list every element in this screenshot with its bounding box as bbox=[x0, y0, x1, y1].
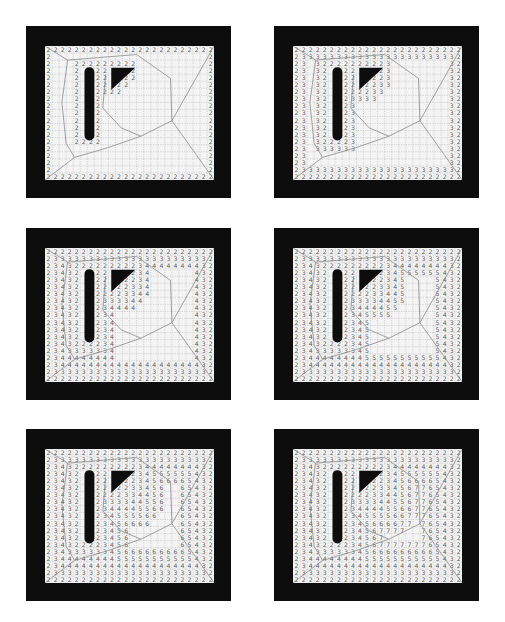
svg-text:2: 2 bbox=[295, 527, 299, 534]
svg-text:4: 4 bbox=[422, 562, 426, 569]
svg-text:2: 2 bbox=[457, 498, 461, 505]
svg-text:2: 2 bbox=[75, 283, 79, 290]
svg-text:3: 3 bbox=[316, 60, 320, 67]
svg-text:3: 3 bbox=[414, 368, 418, 375]
svg-text:7: 7 bbox=[400, 520, 404, 527]
svg-text:3: 3 bbox=[386, 463, 390, 470]
svg-text:3: 3 bbox=[450, 269, 454, 276]
svg-text:4: 4 bbox=[131, 361, 135, 368]
svg-text:5: 5 bbox=[436, 269, 440, 276]
svg-text:4: 4 bbox=[61, 269, 65, 276]
svg-text:2: 2 bbox=[124, 262, 128, 269]
svg-text:2: 2 bbox=[323, 304, 327, 311]
svg-text:4: 4 bbox=[309, 534, 313, 541]
svg-text:3: 3 bbox=[386, 81, 390, 88]
svg-text:2: 2 bbox=[323, 109, 327, 116]
svg-text:3: 3 bbox=[166, 368, 170, 375]
svg-text:2: 2 bbox=[181, 46, 185, 53]
svg-text:5: 5 bbox=[436, 333, 440, 340]
svg-text:2: 2 bbox=[103, 60, 107, 67]
svg-text:2: 2 bbox=[457, 340, 461, 347]
svg-text:4: 4 bbox=[323, 555, 327, 562]
svg-text:3: 3 bbox=[414, 53, 418, 60]
svg-text:3: 3 bbox=[316, 311, 320, 318]
svg-text:2: 2 bbox=[110, 463, 114, 470]
svg-text:2: 2 bbox=[124, 449, 128, 456]
svg-text:2: 2 bbox=[89, 60, 93, 67]
svg-text:2: 2 bbox=[209, 319, 213, 326]
svg-text:2: 2 bbox=[309, 449, 313, 456]
svg-text:5: 5 bbox=[117, 555, 121, 562]
svg-text:2: 2 bbox=[323, 117, 327, 124]
svg-text:3: 3 bbox=[174, 368, 178, 375]
svg-text:4: 4 bbox=[61, 562, 65, 569]
svg-text:4: 4 bbox=[443, 290, 447, 297]
svg-text:5: 5 bbox=[372, 512, 376, 519]
svg-text:5: 5 bbox=[124, 512, 128, 519]
svg-text:3: 3 bbox=[436, 53, 440, 60]
svg-text:4: 4 bbox=[174, 361, 178, 368]
svg-text:3: 3 bbox=[82, 548, 86, 555]
svg-text:2: 2 bbox=[316, 576, 320, 583]
svg-text:6: 6 bbox=[145, 512, 149, 519]
wavefront-grid: 2222222222222222222222222333333333333333… bbox=[45, 248, 214, 382]
svg-text:2: 2 bbox=[443, 375, 447, 382]
svg-text:2: 2 bbox=[117, 491, 121, 498]
svg-text:2: 2 bbox=[436, 173, 440, 180]
svg-text:3: 3 bbox=[145, 368, 149, 375]
svg-text:2: 2 bbox=[457, 562, 461, 569]
svg-text:3: 3 bbox=[450, 117, 454, 124]
svg-text:4: 4 bbox=[75, 555, 79, 562]
svg-text:4: 4 bbox=[379, 505, 383, 512]
svg-text:2: 2 bbox=[47, 109, 51, 116]
svg-text:3: 3 bbox=[159, 569, 163, 576]
svg-text:3: 3 bbox=[316, 131, 320, 138]
grid-field: 2222222222222222222222222333333333333333… bbox=[293, 46, 462, 180]
svg-text:5: 5 bbox=[365, 347, 369, 354]
svg-text:2: 2 bbox=[309, 46, 313, 53]
svg-text:3: 3 bbox=[54, 283, 58, 290]
svg-text:6: 6 bbox=[400, 505, 404, 512]
svg-text:5: 5 bbox=[393, 297, 397, 304]
svg-text:7: 7 bbox=[379, 527, 383, 534]
svg-text:2: 2 bbox=[131, 477, 135, 484]
svg-text:4: 4 bbox=[195, 290, 199, 297]
svg-text:3: 3 bbox=[54, 541, 58, 548]
svg-text:2: 2 bbox=[330, 46, 334, 53]
svg-text:2: 2 bbox=[323, 477, 327, 484]
vertical-bar-obstacle bbox=[332, 269, 342, 342]
svg-text:3: 3 bbox=[450, 541, 454, 548]
svg-text:4: 4 bbox=[195, 319, 199, 326]
svg-text:3: 3 bbox=[450, 520, 454, 527]
svg-text:2: 2 bbox=[209, 484, 213, 491]
svg-text:2: 2 bbox=[316, 173, 320, 180]
svg-text:4: 4 bbox=[323, 361, 327, 368]
svg-text:3: 3 bbox=[443, 166, 447, 173]
svg-text:2: 2 bbox=[457, 527, 461, 534]
svg-text:3: 3 bbox=[138, 463, 142, 470]
svg-text:2: 2 bbox=[330, 541, 334, 548]
svg-text:2: 2 bbox=[295, 534, 299, 541]
svg-text:3: 3 bbox=[379, 88, 383, 95]
svg-text:3: 3 bbox=[443, 53, 447, 60]
svg-text:3: 3 bbox=[68, 290, 72, 297]
svg-text:2: 2 bbox=[117, 262, 121, 269]
svg-text:3: 3 bbox=[54, 548, 58, 555]
svg-text:3: 3 bbox=[302, 512, 306, 519]
svg-text:2: 2 bbox=[61, 449, 65, 456]
svg-text:2: 2 bbox=[323, 67, 327, 74]
svg-text:5: 5 bbox=[152, 498, 156, 505]
svg-text:2: 2 bbox=[209, 326, 213, 333]
svg-text:2: 2 bbox=[54, 173, 58, 180]
svg-text:3: 3 bbox=[117, 569, 121, 576]
svg-text:3: 3 bbox=[344, 166, 348, 173]
svg-text:6: 6 bbox=[159, 477, 163, 484]
svg-text:4: 4 bbox=[138, 290, 142, 297]
svg-text:3: 3 bbox=[316, 138, 320, 145]
svg-text:6: 6 bbox=[181, 484, 185, 491]
svg-text:2: 2 bbox=[82, 262, 86, 269]
svg-text:2: 2 bbox=[96, 491, 100, 498]
svg-text:2: 2 bbox=[47, 304, 51, 311]
svg-text:4: 4 bbox=[351, 354, 355, 361]
svg-text:2: 2 bbox=[103, 67, 107, 74]
